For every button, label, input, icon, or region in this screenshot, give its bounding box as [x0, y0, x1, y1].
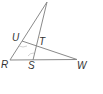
angle-arc-u: [19, 46, 27, 47]
label-r: R: [1, 59, 8, 70]
segment-apex-s: [33, 2, 47, 60]
label-u: U: [12, 32, 20, 43]
label-t: T: [39, 36, 46, 47]
segment-u-w: [22, 41, 77, 60]
angle-arc-s: [28, 53, 34, 56]
triangle-diagram: R S W U T: [0, 0, 103, 94]
label-s: S: [28, 60, 35, 71]
label-w: W: [77, 60, 88, 71]
segment-apex-r: [10, 2, 47, 60]
segment-r-w: [10, 60, 77, 61]
